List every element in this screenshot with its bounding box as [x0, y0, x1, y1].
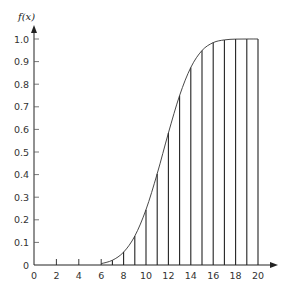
y-tick-label: 0.2 — [14, 214, 29, 225]
x-axis-ticks: 02468101214161820 — [31, 259, 264, 281]
x-tick-label: 6 — [98, 270, 104, 281]
y-tick-label: 0.3 — [14, 192, 29, 203]
x-tick-label: 16 — [207, 270, 219, 281]
y-tick-label: 1.0 — [14, 34, 29, 45]
x-tick-label: 14 — [185, 270, 197, 281]
y-tick-label: 0.5 — [14, 147, 29, 158]
y-axis-label: f(x) — [17, 11, 35, 22]
y-tick-label: 0 — [23, 260, 29, 271]
y-tick-label: 0.4 — [14, 169, 29, 180]
y-tick-label: 0.7 — [14, 101, 29, 112]
y-axis-arrow-icon — [31, 25, 37, 33]
x-axis-arrow-icon — [270, 262, 278, 268]
y-tick-label: 0.1 — [14, 237, 29, 248]
x-tick-label: 4 — [76, 270, 82, 281]
x-tick-label: 20 — [252, 270, 264, 281]
axes — [31, 25, 278, 268]
vertical-stems — [112, 39, 258, 265]
y-tick-label: 0.8 — [14, 79, 29, 90]
x-tick-label: 12 — [162, 270, 174, 281]
x-tick-label: 0 — [31, 270, 37, 281]
x-tick-label: 10 — [140, 270, 152, 281]
y-tick-label: 0.9 — [14, 56, 29, 67]
y-axis-ticks: 00.10.20.30.40.50.60.70.80.91.0 — [14, 34, 39, 271]
y-tick-label: 0.6 — [14, 124, 29, 135]
x-tick-label: 18 — [230, 270, 242, 281]
cdf-chart: 00.10.20.30.40.50.60.70.80.91.0 02468101… — [0, 0, 288, 289]
x-tick-label: 2 — [53, 270, 59, 281]
x-tick-label: 8 — [121, 270, 127, 281]
